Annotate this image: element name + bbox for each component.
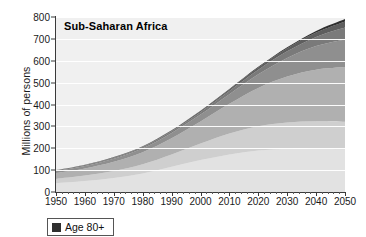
chart-title: Sub-Saharan Africa: [64, 20, 167, 32]
x-minor-tick: [108, 192, 109, 194]
y-tick-label: 700: [0, 33, 50, 44]
x-minor-tick: [339, 192, 340, 194]
y-tick-label: 200: [0, 143, 50, 154]
x-tick-label: 1950: [45, 196, 67, 207]
x-minor-tick: [160, 192, 161, 194]
x-minor-tick: [328, 192, 329, 194]
x-minor-tick: [131, 192, 132, 194]
y-tick-label: 500: [0, 77, 50, 88]
x-minor-tick: [79, 192, 80, 194]
y-tick-label: 600: [0, 55, 50, 66]
legend-swatch-age-80-plus: [52, 223, 61, 232]
gridline: [56, 83, 345, 84]
x-minor-tick: [241, 192, 242, 194]
x-minor-tick: [253, 192, 254, 194]
y-tick-label: 300: [0, 121, 50, 132]
gridline: [56, 61, 345, 62]
x-minor-tick: [149, 192, 150, 194]
x-minor-tick: [68, 192, 69, 194]
x-tick-label: 1990: [160, 196, 182, 207]
x-minor-tick: [270, 192, 271, 194]
chart-container: Millions of persons 01002003004005006007…: [0, 0, 366, 237]
x-minor-tick: [166, 192, 167, 194]
x-tick-label: 1960: [74, 196, 96, 207]
y-tick-mark: [51, 126, 55, 127]
x-minor-tick: [73, 192, 74, 194]
x-minor-tick: [322, 192, 323, 194]
x-minor-tick: [218, 192, 219, 194]
x-minor-tick: [235, 192, 236, 194]
x-tick-label: 2020: [247, 196, 269, 207]
plot-area: [56, 17, 345, 192]
x-tick-label: 2030: [276, 196, 298, 207]
gridline: [56, 105, 345, 106]
y-tick-label: 0: [0, 187, 50, 198]
x-minor-tick: [62, 192, 63, 194]
x-minor-tick: [305, 192, 306, 194]
chart-legend: Age 80+: [47, 218, 114, 236]
y-tick-label: 100: [0, 165, 50, 176]
x-minor-tick: [299, 192, 300, 194]
x-minor-tick: [276, 192, 277, 194]
y-tick-mark: [51, 17, 55, 18]
x-minor-tick: [154, 192, 155, 194]
x-minor-tick: [224, 192, 225, 194]
x-minor-tick: [102, 192, 103, 194]
y-tick-mark: [51, 60, 55, 61]
y-tick-mark: [51, 148, 55, 149]
x-tick-label: 2000: [189, 196, 211, 207]
x-minor-tick: [177, 192, 178, 194]
x-minor-tick: [206, 192, 207, 194]
x-minor-tick: [137, 192, 138, 194]
y-tick-mark: [51, 192, 55, 193]
y-axis-line: [55, 16, 56, 193]
gridline: [56, 148, 345, 149]
x-minor-tick: [293, 192, 294, 194]
x-minor-tick: [125, 192, 126, 194]
gridline: [56, 170, 345, 171]
x-minor-tick: [183, 192, 184, 194]
x-minor-tick: [212, 192, 213, 194]
x-tick-label: 1980: [132, 196, 154, 207]
x-minor-tick: [91, 192, 92, 194]
x-tick-label: 2040: [305, 196, 327, 207]
x-tick-label: 2050: [334, 196, 356, 207]
y-tick-label: 800: [0, 12, 50, 23]
x-tick-label: 2010: [218, 196, 240, 207]
y-tick-mark: [51, 104, 55, 105]
x-minor-tick: [333, 192, 334, 194]
y-tick-mark: [51, 170, 55, 171]
x-minor-tick: [310, 192, 311, 194]
y-tick-mark: [51, 38, 55, 39]
x-minor-tick: [195, 192, 196, 194]
x-minor-tick: [97, 192, 98, 194]
gridline: [56, 126, 345, 127]
gridline: [56, 39, 345, 40]
x-minor-tick: [120, 192, 121, 194]
x-tick-label: 1970: [103, 196, 125, 207]
legend-label-age-80-plus: Age 80+: [65, 221, 104, 233]
y-tick-mark: [51, 82, 55, 83]
x-minor-tick: [281, 192, 282, 194]
x-minor-tick: [189, 192, 190, 194]
gridline: [56, 17, 345, 18]
y-tick-label: 400: [0, 99, 50, 110]
x-minor-tick: [247, 192, 248, 194]
x-minor-tick: [264, 192, 265, 194]
